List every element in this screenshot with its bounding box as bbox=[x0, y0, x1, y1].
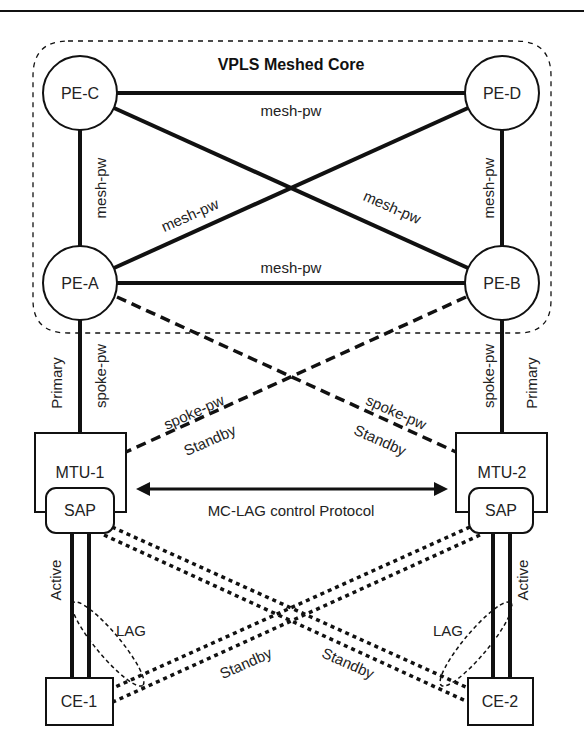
sap-2-label: SAP bbox=[485, 502, 517, 519]
pe-c-label: PE-C bbox=[61, 85, 99, 102]
standby-lag-sap1-ce2-a bbox=[112, 527, 468, 688]
mclag-arrow bbox=[136, 482, 448, 496]
active-links bbox=[72, 533, 510, 678]
label-mesh-diag-a-d: mesh-pw bbox=[159, 195, 222, 235]
label-standby-lag-left: Standby bbox=[217, 644, 275, 682]
standby-lag-sap1-ce2-b bbox=[104, 535, 468, 702]
label-active-left: Active bbox=[47, 560, 64, 601]
label-mesh-diag-c-b: mesh-pw bbox=[361, 187, 424, 227]
label-lag-left: LAG bbox=[116, 622, 146, 639]
label-standby-lag-right: Standby bbox=[320, 644, 378, 682]
label-primary-right: Primary bbox=[523, 357, 540, 409]
label-spoke-right: spoke-pw bbox=[480, 344, 497, 408]
standby-lag-links bbox=[104, 527, 480, 702]
label-standby-diag-left: Standby bbox=[181, 421, 239, 459]
label-spoke-left: spoke-pw bbox=[92, 344, 109, 408]
standby-lag-sap2-ce1-b bbox=[113, 535, 480, 702]
pe-d-label: PE-D bbox=[483, 85, 521, 102]
label-primary-left: Primary bbox=[48, 357, 65, 409]
label-active-right: Active bbox=[514, 560, 531, 601]
label-lag-right: LAG bbox=[433, 622, 463, 639]
diagram-title: VPLS Meshed Core bbox=[218, 56, 365, 73]
ce-2-label: CE-2 bbox=[482, 693, 519, 710]
pe-b-label: PE-B bbox=[483, 275, 520, 292]
label-mesh-bottom: mesh-pw bbox=[261, 259, 322, 276]
ce-1-label: CE-1 bbox=[61, 693, 98, 710]
label-mclag: MC-LAG control Protocol bbox=[208, 502, 375, 519]
label-mesh-right: mesh-pw bbox=[480, 157, 497, 218]
mesh-links bbox=[80, 93, 502, 283]
mtu-2-label: MTU-2 bbox=[478, 464, 527, 481]
label-mesh-left: mesh-pw bbox=[92, 157, 109, 218]
label-mesh-top: mesh-pw bbox=[261, 102, 322, 119]
mtu-1-label: MTU-1 bbox=[56, 464, 105, 481]
sap-1-label: SAP bbox=[64, 502, 96, 519]
pe-a-label: PE-A bbox=[61, 275, 99, 292]
vpls-diagram: PE-C PE-D PE-A PE-B MTU-1 MTU-2 SAP SAP … bbox=[0, 0, 584, 754]
